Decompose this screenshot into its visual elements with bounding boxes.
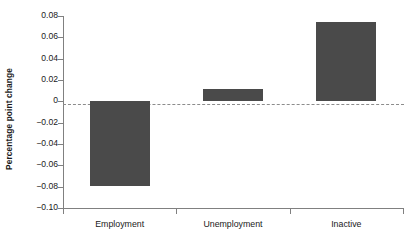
bar-chart: Percentage point change 0.080.060.040.02… xyxy=(0,0,417,238)
x-tick-label: Unemployment xyxy=(176,218,289,230)
x-tick-mark xyxy=(403,209,404,214)
bar xyxy=(203,89,263,101)
bar xyxy=(316,22,376,101)
y-tick-label: 0.06 xyxy=(24,32,58,41)
y-axis-line xyxy=(63,16,64,209)
y-tick-label: −0.04 xyxy=(24,139,58,148)
y-tick-label: −0.08 xyxy=(24,182,58,191)
y-tick-mark xyxy=(58,144,63,145)
y-tick-label: −0.02 xyxy=(24,118,58,127)
y-tick-label: −0.10 xyxy=(24,203,58,212)
x-tick-label: Employment xyxy=(63,218,176,230)
y-tick-label: 0.04 xyxy=(24,54,58,63)
y-tick-label: −0.06 xyxy=(24,160,58,169)
y-tick-mark xyxy=(58,16,63,17)
y-tick-label: 0 xyxy=(24,96,58,105)
y-tick-mark xyxy=(58,187,63,188)
x-tick-mark xyxy=(176,209,177,214)
bar xyxy=(90,101,150,185)
x-tick-mark xyxy=(290,209,291,214)
y-tick-mark xyxy=(58,59,63,60)
y-tick-mark xyxy=(58,80,63,81)
y-tick-label: 0.08 xyxy=(24,11,58,20)
y-axis-title: Percentage point change xyxy=(0,0,18,238)
x-tick-label: Inactive xyxy=(290,218,403,230)
y-tick-label: 0.02 xyxy=(24,75,58,84)
y-tick-mark xyxy=(58,101,63,102)
y-tick-mark xyxy=(58,37,63,38)
y-tick-mark xyxy=(58,123,63,124)
y-tick-mark xyxy=(58,165,63,166)
x-tick-mark xyxy=(63,209,64,214)
x-axis-line xyxy=(63,208,404,209)
